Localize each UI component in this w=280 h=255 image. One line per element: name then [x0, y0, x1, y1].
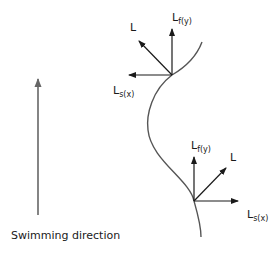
lower-forward-label: Lf(y) [191, 140, 211, 154]
upper-force-vectors [129, 29, 172, 75]
lower-forward-label-sub: f(y) [197, 145, 211, 154]
swimming-direction-caption: Swimming direction [11, 229, 120, 242]
upper-lift-label-main: L [130, 21, 136, 34]
lower-lift-arrow [194, 168, 226, 201]
upper-forward-label-sub: f(y) [178, 17, 192, 26]
lower-lift-label: L [230, 152, 236, 163]
diagram-canvas [0, 0, 280, 255]
lower-lift-label-main: L [230, 151, 236, 164]
upper-lift-arrow [139, 41, 172, 75]
lower-side-label-sub: s(x) [253, 214, 268, 223]
upper-lift-label: L [130, 22, 136, 33]
lower-side-label: Ls(x) [247, 209, 268, 223]
upper-side-label: Ls(x) [113, 85, 134, 99]
upper-side-label-sub: s(x) [119, 90, 134, 99]
upper-forward-label: Lf(y) [172, 12, 192, 26]
